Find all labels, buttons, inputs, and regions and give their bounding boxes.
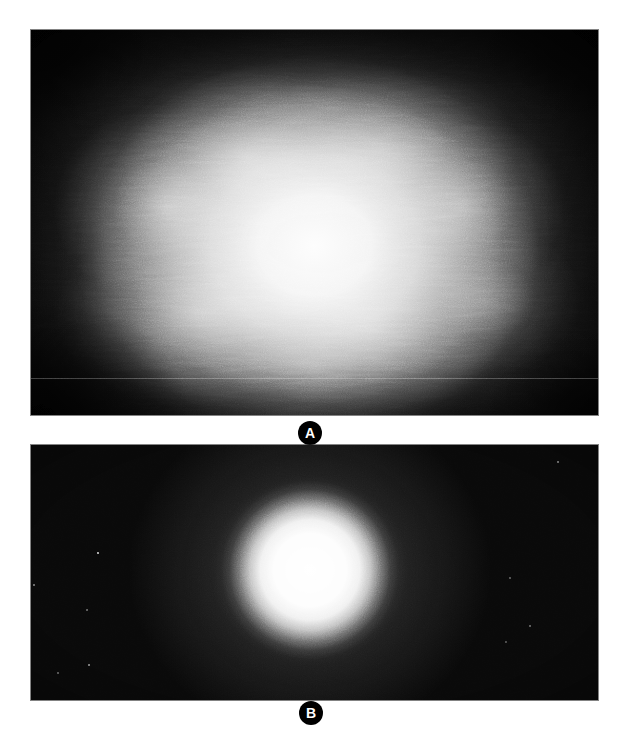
panel-b-speckle <box>57 672 59 674</box>
panel-a-image <box>31 30 598 415</box>
figure-root: A B <box>0 0 621 729</box>
panel-b-image <box>31 445 598 700</box>
panel-b-speckle <box>557 461 559 463</box>
panel-b-speckle <box>505 641 507 643</box>
panel-a-label: A <box>298 421 322 445</box>
panel-b-speckle <box>97 552 99 554</box>
panel-a-dark-corners <box>31 30 598 415</box>
panel-b-label: B <box>299 701 323 725</box>
panel-b-speckle <box>88 664 90 666</box>
panel-b-speckle <box>33 584 35 586</box>
panel-b-speckle <box>86 609 88 611</box>
panel-b-speckle <box>529 625 531 627</box>
panel-b-speckle <box>509 577 511 579</box>
panel-a-scanline-artifact <box>31 378 598 379</box>
panel-b-vignette <box>31 445 598 700</box>
